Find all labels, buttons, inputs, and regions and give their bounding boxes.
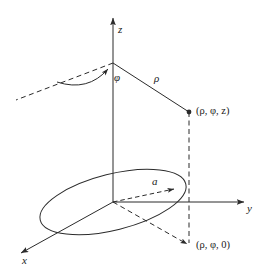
phi-reference-dashed-line bbox=[16, 63, 113, 100]
z-axis-label: z bbox=[118, 24, 122, 35]
ground-projection-dashed-line bbox=[113, 202, 187, 244]
x-axis-label: x bbox=[22, 255, 27, 266]
point-3d-marker bbox=[187, 110, 192, 115]
radius-a-label: a bbox=[152, 176, 158, 187]
phi-angle-arc bbox=[57, 69, 108, 85]
rho-length-label: ρ bbox=[154, 73, 159, 84]
x-axis bbox=[21, 202, 113, 253]
cylindrical-coordinates-diagram bbox=[0, 0, 270, 273]
rho-segment bbox=[113, 63, 189, 112]
point-projection-label: (ρ, φ, 0) bbox=[196, 240, 230, 251]
phi-angle-label: φ bbox=[114, 72, 120, 83]
radius-a-dashed-arrow bbox=[113, 189, 174, 202]
y-axis-label: y bbox=[247, 203, 252, 214]
point-3d-label: (ρ, φ, z) bbox=[196, 106, 229, 117]
figure-container: z y x φ ρ a (ρ, φ, z) (ρ, φ, 0) bbox=[0, 0, 270, 273]
